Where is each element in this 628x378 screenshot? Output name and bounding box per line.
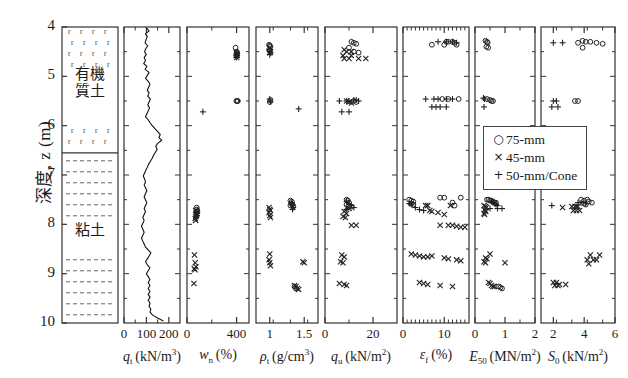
x-tick-label: 0 <box>305 326 345 342</box>
y-tick-label: 9 <box>29 264 55 281</box>
legend-label: 45-mm <box>506 149 545 167</box>
soil-layer-label: 粘土 <box>62 222 118 239</box>
y-tick-label: 4 <box>29 17 55 34</box>
panel-frame-p5 <box>403 27 469 323</box>
x-tick-label: 0 <box>383 326 423 342</box>
legend: ○ 75-mm × 45-mm + 50-mm/Cone <box>483 126 587 190</box>
y-tick-label: 8 <box>29 214 55 231</box>
x-axis-label: S0 (kN/m2) <box>519 347 628 366</box>
cross-icon: × <box>491 150 506 166</box>
legend-item-75mm: ○ 75-mm <box>491 131 577 149</box>
y-tick-label: 5 <box>29 66 55 83</box>
circle-icon: ○ <box>491 132 506 148</box>
x-tick-label: 0 <box>167 326 207 342</box>
panel-frame-p1 <box>124 27 180 323</box>
y-tick-label: 7 <box>29 165 55 182</box>
soil-layer-label: 有機質土 <box>62 66 118 100</box>
y-tick-label: 10 <box>29 313 55 330</box>
plus-icon: + <box>491 168 506 184</box>
legend-label: 50-mm/Cone <box>506 167 577 185</box>
panel-frame-p4 <box>325 27 397 323</box>
figure-root: 深度, z (m) rrrrrrrrrrrrrrrrrrrrrrrr ○ 75-… <box>0 0 628 378</box>
legend-item-45mm: × 45-mm <box>491 149 577 167</box>
panel-frame-p3 <box>256 27 318 323</box>
y-tick-label: 6 <box>29 116 55 133</box>
legend-label: 75-mm <box>506 131 545 149</box>
panel-frame-p2 <box>187 27 249 323</box>
legend-item-50mm-cone: + 50-mm/Cone <box>491 167 577 185</box>
x-tick-label: 6 <box>595 326 628 342</box>
